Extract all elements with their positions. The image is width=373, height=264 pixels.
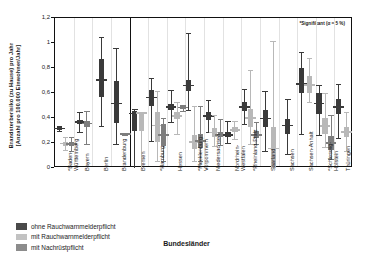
- whisker-cap-upper: [77, 112, 82, 113]
- whisker-line: [151, 78, 152, 141]
- whisker-cap-lower: [174, 134, 179, 135]
- data-marker-boxplot: [99, 18, 104, 168]
- whisker-cap-lower: [336, 138, 341, 139]
- whisker-cap-upper: [316, 85, 321, 86]
- box-iqr: [285, 119, 290, 133]
- whisker-line: [194, 106, 195, 161]
- median-line: [333, 106, 344, 108]
- x-axis-label-line: Brandenburg: [121, 139, 127, 171]
- whisker-cap-upper: [99, 37, 104, 38]
- whisker-cap-upper: [248, 70, 253, 71]
- data-marker-boxplot: [225, 18, 230, 168]
- data-marker-boxplot: [299, 18, 304, 168]
- x-axis-tick-label: Bayern: [84, 153, 90, 171]
- whisker-cap-upper: [206, 100, 211, 101]
- whisker-cap-upper: [328, 115, 333, 116]
- whisker-cap-upper: [168, 90, 173, 91]
- whisker-cap-upper: [254, 122, 259, 123]
- grid-line-vertical: [111, 18, 112, 166]
- whisker-cap-upper: [262, 91, 267, 92]
- legend-swatch: [16, 244, 27, 251]
- y-axis-tick-label: 0,2: [28, 139, 50, 145]
- x-axis-label-line: Württemberg: [73, 139, 79, 171]
- x-axis-tick-label: Nordrhein-Westfalen: [234, 145, 247, 171]
- x-axis-label-line: Hessen: [177, 152, 183, 171]
- y-axis-tick-label: 1,2: [28, 14, 50, 20]
- x-axis-tick-label: Thüringen: [345, 146, 351, 171]
- x-axis-tick-label: Sachsen-Anhalt: [308, 132, 314, 172]
- x-axis-tick-label: Berlin: [103, 157, 109, 171]
- whisker-cap-lower: [262, 151, 267, 152]
- whisker-cap-upper: [232, 121, 237, 122]
- data-marker-boxplot: [132, 18, 137, 168]
- data-marker-boxplot: [174, 18, 179, 168]
- x-axis-label-line: *Rheinland-Pfalz: [252, 129, 258, 171]
- x-axis-tick-label: Sachsen: [289, 149, 295, 171]
- y-axis-title: Brandsterberisiko (zu Hause) pro Jahr [A…: [4, 8, 26, 183]
- median-line: [136, 112, 147, 114]
- data-marker-boxplot: [57, 18, 62, 168]
- median-line: [304, 84, 315, 86]
- data-marker-boxplot: [271, 18, 276, 168]
- median-line: [341, 131, 352, 133]
- grid-line-vertical: [260, 18, 261, 166]
- legend-label: ohne Rauchwarnmelderpflicht: [31, 223, 116, 230]
- x-axis-label-line: Holstein: [334, 142, 340, 171]
- median-line: [230, 129, 241, 131]
- x-axis-tick-label: Bremen: [140, 151, 146, 171]
- whisker-cap-lower: [57, 131, 62, 132]
- whisker-cap-lower: [149, 141, 154, 142]
- x-axis-label-line: Westfalen: [241, 145, 247, 171]
- whisker-cap-upper: [84, 111, 89, 112]
- x-axis-tick-label: Brandenburg: [121, 139, 127, 171]
- x-axis-tick-label: Niedersachsen: [215, 134, 221, 171]
- median-line: [282, 125, 293, 127]
- y-axis-title-line1: Brandsterberisiko (zu Hause) pro Jahr: [8, 43, 15, 148]
- whisker-cap-lower: [113, 144, 118, 145]
- x-axis-label-line: Saarland: [270, 149, 276, 171]
- data-marker-boxplot: [168, 18, 173, 168]
- x-axis-label-line: Vorpommern: [203, 135, 209, 171]
- data-marker-boxplot: [139, 18, 144, 168]
- data-marker-boxplot: [84, 18, 89, 168]
- whisker-cap-lower: [99, 126, 104, 127]
- chart-root: Brandsterberisiko (zu Hause) pro Jahr [A…: [0, 0, 373, 264]
- whisker-cap-upper: [161, 118, 166, 119]
- whisker-cap-upper: [198, 106, 203, 107]
- median-line: [111, 103, 122, 105]
- x-axis-label-line: Thüringen: [345, 146, 351, 171]
- whisker-cap-upper: [212, 115, 217, 116]
- whisker-cap-upper: [344, 112, 349, 113]
- whisker-cap-lower: [299, 134, 304, 135]
- box-iqr: [299, 68, 304, 93]
- grid-line-vertical: [92, 18, 93, 166]
- box-iqr: [155, 112, 160, 142]
- legend-item: mit Nachrüstpflicht: [16, 242, 116, 253]
- x-axis-label-line: Niedersachsen: [215, 134, 221, 171]
- y-axis-tick-mark: [51, 167, 54, 168]
- whisker-cap-upper: [192, 106, 197, 107]
- whisker-cap-upper: [186, 33, 191, 34]
- y-axis-tick-label: 1: [28, 39, 50, 45]
- x-axis-label-line: Berlin: [103, 157, 109, 171]
- x-axis-tick-label: *Mecklenburg-Vorpommern: [197, 135, 210, 171]
- box-iqr: [99, 59, 104, 98]
- whisker-cap-upper: [174, 102, 179, 103]
- whisker-cap-lower: [307, 102, 312, 103]
- legend-label: mit Nachrüstpflicht: [31, 244, 84, 251]
- median-line: [82, 123, 93, 125]
- x-axis-tick-label: *Rheinland-Pfalz: [252, 129, 258, 171]
- whisker-cap-upper: [155, 91, 160, 92]
- data-marker-boxplot: [316, 18, 321, 168]
- x-axis-label-line: *Baden-: [67, 139, 73, 171]
- whisker-cap-lower: [242, 124, 247, 125]
- x-axis-label-line: Bremen: [140, 151, 146, 171]
- median-line: [260, 118, 271, 120]
- whisker-cap-lower: [84, 144, 89, 145]
- legend-item: mit Rauchwarnmelderpflicht: [16, 232, 116, 243]
- whisker-line: [188, 33, 189, 110]
- y-axis-tick-label: 0: [28, 164, 50, 170]
- x-axis-tick-label: Saarland: [270, 149, 276, 171]
- x-axis-label-line: *Hamburg: [159, 146, 165, 171]
- whisker-cap-lower: [316, 135, 321, 136]
